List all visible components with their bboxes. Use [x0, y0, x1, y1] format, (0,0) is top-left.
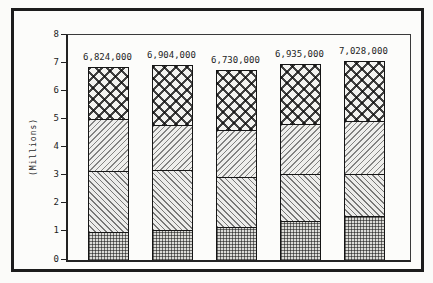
bar-3-segment-top — [217, 71, 256, 130]
bar-4-segment-upper-middle — [281, 124, 320, 174]
y-tick-label-4: 4 — [43, 141, 59, 152]
bar-2-segment-upper-middle — [153, 125, 192, 170]
bar-4-segment-top — [281, 65, 320, 124]
y-tick-label-5: 5 — [43, 113, 59, 124]
y-tick-mark-8 — [61, 34, 66, 35]
bar-value-label-3: 6,730,000 — [211, 55, 260, 65]
bar-3 — [216, 70, 257, 260]
bar-1 — [88, 67, 129, 260]
screenshot-root: (Millions) 6,824,0006,904,0006,730,0006,… — [0, 0, 433, 283]
bar-4-segment-lower-middle — [281, 174, 320, 221]
y-tick-mark-5 — [61, 118, 66, 119]
bar-1-segment-top — [89, 68, 128, 119]
bar-5-segment-lower-middle — [345, 174, 384, 216]
bar-3-segment-upper-middle — [217, 130, 256, 177]
bar-1-segment-upper-middle — [89, 119, 128, 171]
y-tick-label-8: 8 — [43, 29, 59, 40]
chart-outer-frame: (Millions) 6,824,0006,904,0006,730,0006,… — [11, 8, 424, 272]
bar-2-segment-bottom — [153, 230, 192, 260]
y-tick-mark-3 — [61, 174, 66, 175]
y-tick-label-3: 3 — [43, 169, 59, 180]
bar-5-segment-top — [345, 62, 384, 120]
bar-5-segment-bottom — [345, 216, 384, 260]
y-tick-mark-7 — [61, 62, 66, 63]
bar-2-segment-top — [153, 66, 192, 125]
bar-value-label-4: 6,935,000 — [275, 49, 324, 59]
y-tick-mark-2 — [61, 202, 66, 203]
bar-2-segment-lower-middle — [153, 170, 192, 230]
bar-3-segment-bottom — [217, 227, 256, 260]
y-tick-mark-1 — [61, 230, 66, 231]
bar-4-segment-bottom — [281, 221, 320, 260]
bar-3-segment-lower-middle — [217, 177, 256, 227]
y-tick-label-1: 1 — [43, 225, 59, 236]
y-tick-label-6: 6 — [43, 85, 59, 96]
y-axis-title: (Millions) — [29, 118, 38, 176]
chart-container: (Millions) 6,824,0006,904,0006,730,0006,… — [3, 3, 433, 283]
plot-area: 6,824,0006,904,0006,730,0006,935,0007,02… — [66, 34, 411, 262]
bar-2 — [152, 65, 193, 260]
y-tick-label-0: 0 — [43, 254, 59, 265]
bar-value-label-1: 6,824,000 — [83, 52, 132, 62]
bar-5-segment-upper-middle — [345, 121, 384, 175]
bar-5 — [344, 61, 385, 260]
y-tick-label-2: 2 — [43, 197, 59, 208]
y-tick-label-7: 7 — [43, 57, 59, 68]
bar-value-label-2: 6,904,000 — [147, 50, 196, 60]
bar-4 — [280, 64, 321, 260]
bar-1-segment-lower-middle — [89, 171, 128, 232]
y-tick-mark-4 — [61, 146, 66, 147]
bar-1-segment-bottom — [89, 232, 128, 260]
y-tick-mark-0 — [61, 259, 66, 260]
bar-value-label-5: 7,028,000 — [339, 46, 388, 56]
y-tick-mark-6 — [61, 90, 66, 91]
